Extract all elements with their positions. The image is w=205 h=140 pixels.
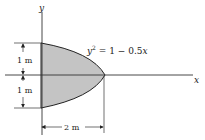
equation-label: y2 = 1 − 0.5x	[86, 44, 148, 56]
dim-lower-height-label: 1 m	[17, 86, 33, 95]
dim-width-label: 2 m	[64, 123, 80, 132]
x-axis-label: x	[194, 75, 199, 85]
y-axis-label: y	[38, 3, 45, 13]
area-diagram: y x y2 = 1 − 0.5x 1 m 1 m 2 m	[0, 0, 205, 140]
dim-upper-height-label: 1 m	[17, 56, 33, 65]
